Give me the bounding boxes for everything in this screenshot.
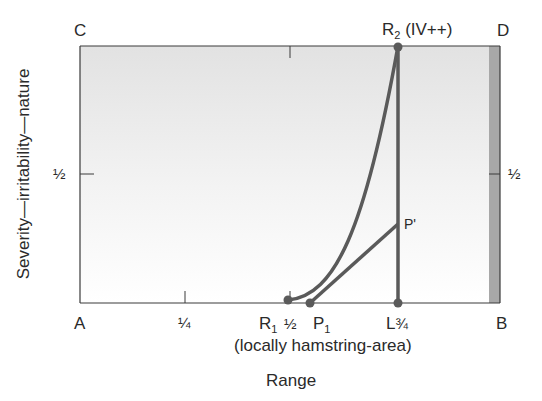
corner-B: B bbox=[496, 315, 507, 332]
label-R2: R2 (IV++) bbox=[382, 21, 452, 41]
label-R1: R1 bbox=[259, 315, 277, 335]
corner-C: C bbox=[74, 22, 86, 39]
point-L bbox=[394, 299, 403, 308]
label-L: L¾ bbox=[386, 315, 408, 332]
point-R1 bbox=[284, 296, 293, 305]
y-tick-half-left: ½ bbox=[53, 166, 66, 181]
point-P1 bbox=[306, 299, 315, 308]
shaded-area bbox=[80, 46, 489, 303]
x-tick-quarter: ¼ bbox=[178, 315, 191, 330]
corner-A: A bbox=[74, 315, 85, 332]
corner-D: D bbox=[497, 22, 509, 39]
x-tick-half: ½ bbox=[284, 316, 297, 331]
point-R2 bbox=[394, 43, 403, 52]
y-axis-title: Severity—irritability—nature bbox=[14, 69, 34, 280]
x-axis-subtitle: (locally hamstring-area) bbox=[234, 337, 412, 354]
x-axis-title: Range bbox=[266, 372, 316, 389]
label-P1: P1 bbox=[313, 315, 330, 335]
y-tick-half-right: ½ bbox=[508, 166, 521, 181]
label-P-prime: P' bbox=[404, 217, 416, 231]
